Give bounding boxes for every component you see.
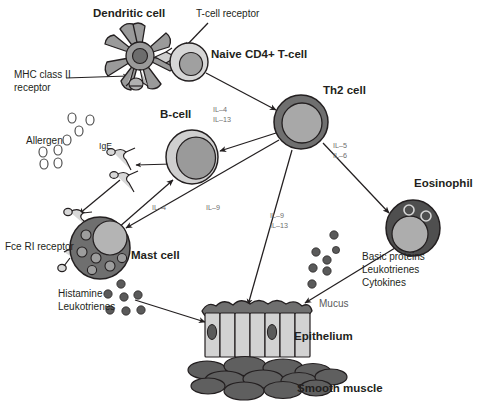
cytokine-eos-il6: IL–6 <box>333 151 347 160</box>
label-dendritic-cell: Dendritic cell <box>93 7 165 21</box>
eosinophil <box>386 200 440 256</box>
arrow-ige-to-mastcell <box>79 180 120 214</box>
arrow-th2-to-bcell <box>220 133 276 151</box>
arrow-mastcell-to-epithelium <box>135 300 205 322</box>
eosinophil-granule <box>421 211 431 221</box>
label-th2-cell: Th2 cell <box>323 84 366 98</box>
epithelial-nucleus <box>207 325 216 340</box>
label-mhc-class-ii-line2: receptor <box>14 82 51 94</box>
arrow-mhc-receptor <box>66 76 128 78</box>
label-basic-proteins: Basic proteins <box>362 251 425 263</box>
cytokine-mast-il4: IL–4 <box>152 203 166 212</box>
dendritic-nucleus <box>133 49 148 64</box>
ige-antibody <box>110 171 138 192</box>
label-allergen: Allergen <box>26 135 63 147</box>
ige-antibodies <box>107 148 138 192</box>
mast-nucleus <box>93 221 127 255</box>
label-mhc-class-ii-line1: MHC class II <box>14 69 71 81</box>
cytokine-epi-il13: IL–13 <box>270 221 288 230</box>
cytokine-epi-il9: IL–9 <box>270 211 284 220</box>
epithelium <box>202 301 312 358</box>
label-cytokines: Cytokines <box>362 277 406 289</box>
cytokine-eos-il5: IL–5 <box>333 141 347 150</box>
label-eosinophil: Eosinophil <box>414 177 473 191</box>
label-t-cell-receptor: T-cell receptor <box>196 8 259 20</box>
label-fce-ri-receptor: Fce RI receptor <box>5 241 74 253</box>
cytokine-bcell-il13: IL–13 <box>213 115 231 124</box>
diagram-canvas: IL–4 IL–13 IL–4 IL–9 IL–9 IL–13 IL–5 IL–… <box>0 0 483 404</box>
eosinophil-mediator-dots <box>308 231 340 288</box>
label-smooth-muscle: Smooth muscle <box>297 382 383 396</box>
eosinophil-granule <box>404 205 414 215</box>
label-histamine: Histamine <box>58 288 102 300</box>
label-mast-cell: Mast cell <box>131 249 180 263</box>
cytokine-mast-il9: IL–9 <box>206 203 220 212</box>
th2-cell <box>274 95 328 149</box>
label-eosinophil-leukotrienes: Leukotrienes <box>362 264 419 276</box>
label-ige: IgE <box>99 141 112 151</box>
mast-cell <box>70 217 130 279</box>
eosinophil-nucleus <box>392 216 428 252</box>
label-naive-cd4-t-cell: Naive CD4+ T-cell <box>211 48 307 62</box>
epithelial-nucleus <box>267 325 276 340</box>
b-cell <box>166 130 218 184</box>
label-leukotrienes: Leukotrienes <box>58 301 115 313</box>
ige-antibody <box>107 148 135 170</box>
label-mucus: Mucus <box>319 298 348 310</box>
naive-cd4-t-cell <box>170 43 208 81</box>
label-epithelium: Epithelium <box>294 330 353 344</box>
label-b-cell: B-cell <box>160 108 191 122</box>
cytokine-bcell-il4: IL–4 <box>213 105 227 114</box>
